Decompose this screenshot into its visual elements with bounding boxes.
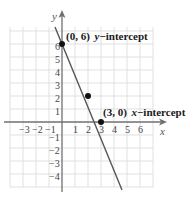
point-y-intercept [59,41,65,47]
svg-text:3: 3 [99,124,104,135]
y-axis-label: y [51,10,57,22]
svg-text:5: 5 [125,124,130,135]
x-tick-labels: −3 −2 −1 1 2 3 4 5 6 [19,124,143,135]
svg-text:−2: −2 [32,124,43,135]
svg-text:−4: −4 [49,171,60,182]
y-tick-labels: 1 2 3 4 5 6 −1 −2 −3 −4 [49,41,60,182]
y-intercept-annotation: (0, 6) y−intercept [66,30,148,43]
svg-text:−3: −3 [49,158,60,169]
x-axis-label: x [159,125,165,137]
svg-text:4: 4 [112,124,117,135]
svg-text:1: 1 [73,124,78,135]
chart: x y −3 −2 −1 1 2 3 4 5 6 1 2 3 4 5 6 −1 … [0,0,186,198]
svg-text:−1: −1 [49,132,60,143]
svg-text:3: 3 [55,80,60,91]
svg-text:−2: −2 [49,145,60,156]
svg-text:6: 6 [138,124,143,135]
point-2-2 [85,93,91,99]
svg-text:4: 4 [55,67,60,78]
svg-text:−3: −3 [19,124,30,135]
svg-text:6: 6 [55,41,60,52]
svg-text:5: 5 [55,54,60,65]
svg-text:2: 2 [55,93,60,104]
svg-text:2: 2 [86,124,91,135]
x-intercept-annotation: (3, 0) x−intercept [103,106,186,119]
point-x-intercept [98,119,104,125]
svg-text:1: 1 [55,106,60,117]
